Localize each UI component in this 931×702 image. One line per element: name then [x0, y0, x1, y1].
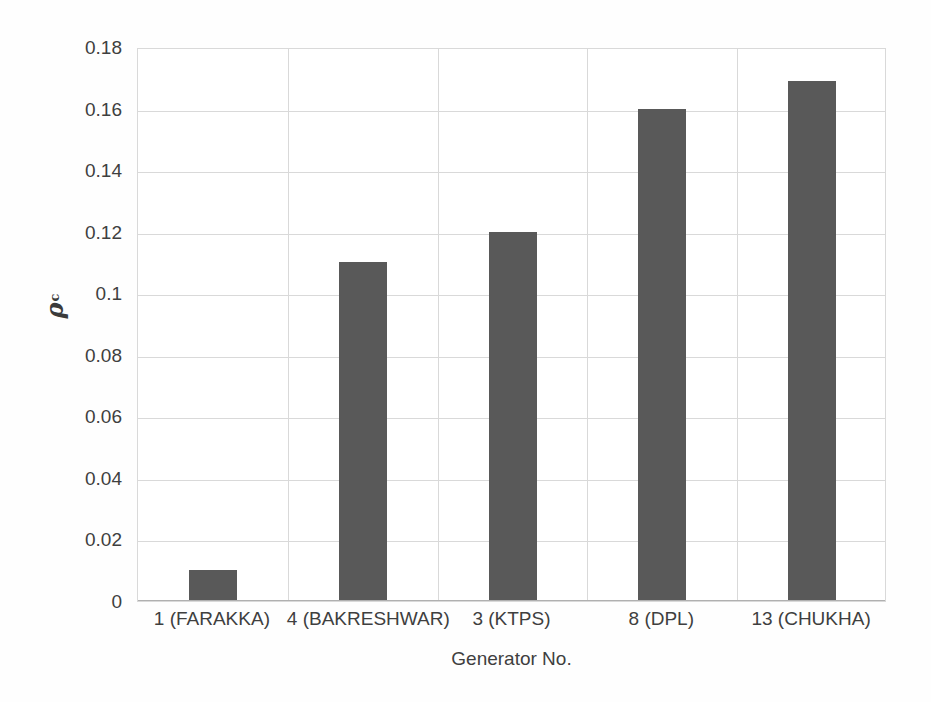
x-axis-tick-label: 4 (BAKRESHWAR): [287, 608, 437, 630]
x-axis-tick-label: 3 (KTPS): [437, 608, 587, 630]
x-axis-tick-label: 8 (DPL): [586, 608, 736, 630]
y-axis-tick-label: 0.1: [96, 283, 122, 305]
bar: [189, 570, 237, 601]
plot-area: [137, 48, 886, 602]
y-axis-tick-label: 0.04: [85, 468, 122, 490]
bar: [788, 81, 836, 601]
y-axis-tick-labels: 00.020.040.060.080.10.120.140.160.18: [48, 48, 130, 602]
y-axis-tick-label: 0.08: [85, 345, 122, 367]
x-axis-tick-label: 13 (CHUKHA): [736, 608, 886, 630]
x-axis-tick-labels: 1 (FARAKKA)4 (BAKRESHWAR)3 (KTPS)8 (DPL)…: [137, 608, 886, 642]
x-axis-tick-label: 1 (FARAKKA): [137, 608, 287, 630]
bar: [339, 262, 387, 601]
x-axis-title: Generator No.: [137, 648, 886, 670]
bar: [638, 109, 686, 601]
y-axis-tick-label: 0: [111, 591, 122, 613]
bars-layer: [138, 49, 885, 601]
x-axis-baseline: [138, 600, 885, 601]
y-axis-tick-label: 0.18: [85, 37, 122, 59]
bar-chart: ρc 00.020.040.060.080.10.120.140.160.18 …: [0, 0, 931, 702]
y-axis-tick-label: 0.14: [85, 160, 122, 182]
y-axis-tick-label: 0.16: [85, 99, 122, 121]
y-axis-tick-label: 0.12: [85, 222, 122, 244]
y-axis-tick-label: 0.02: [85, 529, 122, 551]
bar: [489, 232, 537, 601]
y-axis-tick-label: 0.06: [85, 406, 122, 428]
